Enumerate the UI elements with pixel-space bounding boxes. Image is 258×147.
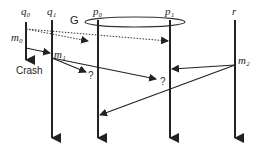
label-m1: m₁ — [54, 49, 66, 60]
label-m2: m₂ — [238, 55, 250, 66]
label-crash: Crash — [16, 66, 43, 76]
message-m0 — [26, 48, 50, 53]
label-r: r — [232, 6, 236, 17]
label-q0: q₀ — [21, 6, 30, 17]
label-p0: p₀ — [93, 6, 102, 17]
label-p1: p₁ — [165, 6, 174, 17]
message-m2-b — [100, 65, 235, 115]
label-group: G — [70, 15, 79, 26]
dotted-msg-to-p0 — [26, 29, 88, 41]
label-m0: m₀ — [11, 32, 23, 43]
message-m1-b — [52, 58, 156, 79]
message-m1-a — [52, 58, 86, 72]
label-q1: q₁ — [47, 6, 56, 17]
label-unknown-1: ? — [88, 71, 94, 81]
label-unknown-2: ? — [160, 77, 166, 87]
